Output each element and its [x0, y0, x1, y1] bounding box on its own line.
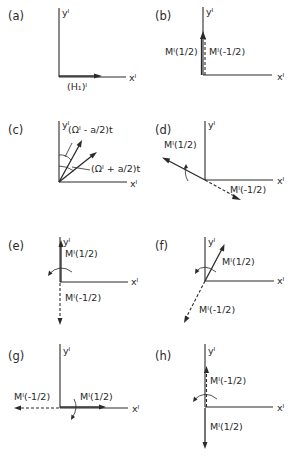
rotating-frame-vector-diagram: (a) yᴵ xᴵ (H₁)ᴵ (b) yᴵ xᴵ Mᴵ(1/2) Mᴵ(-1/… [0, 0, 294, 463]
arrow-head-icon [162, 158, 170, 164]
x-axis-label: xᴵ [130, 178, 138, 189]
panel-a: (a) yᴵ xᴵ (H₁)ᴵ [8, 7, 137, 92]
y-axis-label: yᴵ [208, 236, 216, 247]
arrow-head-icon [200, 31, 206, 39]
vector-label: Mᴵ(1/2) [65, 248, 98, 259]
steep-vector [59, 144, 80, 182]
arrow-head-icon [58, 318, 63, 325]
arrow-head-icon [99, 405, 106, 410]
y-axis-label: yᴵ [63, 345, 71, 356]
arrow-head-icon [71, 415, 75, 421]
vector-label: Mᴵ(1/2) [80, 391, 113, 402]
arrow-head-icon [220, 244, 225, 252]
arrow-head-icon [203, 442, 208, 449]
vector-label: Mᴵ(1/2) [222, 256, 255, 267]
y-axis-label: yᴵ [208, 119, 216, 130]
vector-label: Mᴵ(-1/2) [65, 292, 101, 303]
y-axis-label: yᴵ [208, 345, 216, 356]
y-axis-label: yᴵ [206, 6, 214, 17]
vector-label: (H₁)ᴵ [67, 81, 87, 92]
panel-c: (c) yᴵ xᴵ (Ωᴵ - a/2)t (Ωᴵ + a/2)t [8, 119, 141, 189]
panel-label: (c) [8, 123, 23, 137]
x-axis-label: xᴵ [277, 71, 285, 82]
vector-label: Mᴵ(-1/2) [14, 391, 50, 402]
panel-label: (f) [155, 239, 168, 253]
vector-label: Mᴵ(1/2) [210, 421, 243, 432]
y-axis-label: yᴵ [62, 7, 70, 18]
arrow-head-icon [14, 406, 21, 411]
panel-label: (a) [8, 9, 24, 23]
panel-d: (d) yᴵ xᴵ Mᴵ(1/2) Mᴵ(-1/2) [155, 119, 285, 200]
panel-h: (h) yᴵ xᴵ Mᴵ(-1/2) Mᴵ(1/2) [155, 344, 285, 449]
panel-g: (g) yᴵ xᴵ Mᴵ(1/2) Mᴵ(-1/2) [8, 344, 140, 420]
vector-label: Mᴵ(1/2) [164, 139, 197, 150]
arrow-head-icon [184, 164, 189, 169]
arrow-head-icon [184, 316, 190, 324]
panel-b: (b) yᴵ xᴵ Mᴵ(1/2) Mᴵ(-1/2) [155, 6, 285, 82]
panel-label: (h) [155, 349, 171, 363]
x-axis-label: xᴵ [277, 402, 285, 413]
x-axis-label: xᴵ [131, 276, 139, 287]
m-plus-half-vector [205, 249, 222, 281]
arrow-head-icon [94, 74, 102, 79]
x-axis-label: xᴵ [277, 175, 285, 186]
leader-line [65, 143, 72, 157]
shallow-vector [59, 155, 93, 182]
panel-label: (g) [8, 349, 24, 363]
vector-label: Mᴵ(-1/2) [199, 304, 235, 315]
x-axis-label: xᴵ [132, 403, 140, 414]
panel-label: (e) [8, 239, 24, 253]
panel-label: (b) [155, 9, 171, 23]
y-axis-label: yᴵ [63, 236, 71, 247]
panel-label: (d) [155, 123, 171, 137]
panel-e: (e) yᴵ xᴵ Mᴵ(1/2) Mᴵ(-1/2) [8, 236, 139, 325]
x-axis-label: xᴵ [129, 72, 137, 83]
vector-label: Mᴵ(-1/2) [230, 184, 266, 195]
angle-label: (Ωᴵ - a/2)t [68, 124, 113, 135]
vector-label: Mᴵ(-1/2) [210, 375, 246, 386]
arrow-head-icon [77, 140, 83, 148]
panel-f: (f) yᴵ xᴵ Mᴵ(1/2) Mᴵ(-1/2) [155, 236, 285, 323]
x-axis-label: xᴵ [277, 275, 285, 286]
vector-label: Mᴵ(1/2) [165, 46, 198, 57]
vector-label: Mᴵ(-1/2) [209, 46, 245, 57]
angle-label: (Ωᴵ + a/2)t [91, 163, 141, 174]
angle-arc [59, 155, 71, 160]
